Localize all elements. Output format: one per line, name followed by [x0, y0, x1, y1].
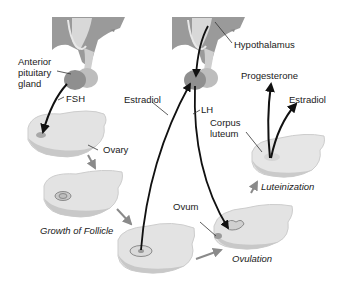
anterior-pituitary-label-1: Anterior	[18, 56, 51, 67]
corpus-luteum-label-2: luteum	[210, 128, 239, 139]
corpus-luteum-label-1: Corpus	[210, 117, 241, 128]
ovulation-label: Ovulation	[232, 253, 272, 264]
ovum-label: Ovum	[173, 201, 198, 212]
ovum-cell	[214, 233, 222, 239]
stage-arrow-4	[251, 182, 257, 193]
ovarian-cycle-diagram: Anterior pituitary gland FSH Estradiol H…	[0, 0, 346, 286]
stage-arrow-1	[88, 155, 95, 168]
fsh-label: FSH	[66, 93, 85, 104]
stage-arrow-3	[196, 250, 221, 259]
estradiol-right-label: Estradiol	[289, 94, 326, 105]
ovary-initial	[28, 111, 106, 157]
left-brain-section	[52, 17, 125, 90]
ovary-growth	[44, 170, 123, 217]
anterior-pituitary-label-3: gland	[18, 78, 41, 89]
fsh-leader	[58, 97, 64, 100]
lh-label: LH	[201, 104, 213, 115]
luteinization-label: Luteinization	[261, 181, 314, 192]
growth-of-follicle-label: Growth of Follicle	[40, 225, 113, 236]
ovary-1-follicle	[36, 132, 46, 138]
right-brain-section	[172, 17, 245, 90]
ovary-2-follicle-inner	[59, 194, 67, 199]
estradiol-left-label: Estradiol	[124, 94, 161, 105]
lh-leader	[193, 110, 200, 114]
ovary-label: Ovary	[103, 144, 129, 155]
hypothalamus-label: Hypothalamus	[234, 39, 295, 50]
ovary-ovulation	[214, 204, 293, 249]
progesterone-label: Progesterone	[241, 70, 298, 81]
ovary-mature	[118, 223, 195, 273]
anterior-pituitary-label-2: pituitary	[18, 67, 52, 78]
ovary-luteinization	[252, 134, 325, 177]
stage-arrow-2	[117, 209, 131, 224]
